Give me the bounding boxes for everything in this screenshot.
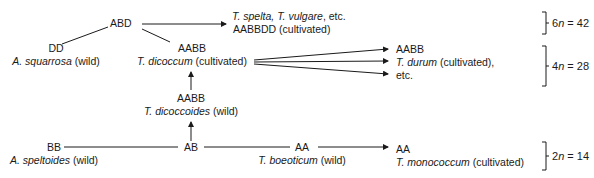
node-boeoticum: AA T. boeoticum (wild) xyxy=(252,141,352,167)
node-dicoccoides: AABB T. dicoccoides (wild) xyxy=(136,92,246,118)
ploidy-diploid: 2n = 14 xyxy=(552,150,589,162)
bracket-6n xyxy=(542,12,546,34)
genome-label: BB xyxy=(4,141,104,154)
status-label: (wild) xyxy=(321,154,346,166)
node-dicoccum: AABB T. dicoccum (cultivated) xyxy=(134,42,250,68)
bracket-4n xyxy=(542,46,546,86)
genome-label: AABBDD xyxy=(233,23,276,35)
status-label: (wild) xyxy=(213,105,238,117)
node-spelta: T. spelta, T. vulgare, etc. AABBDD (cult… xyxy=(232,10,346,36)
species-name: T. dicoccoides xyxy=(144,105,210,117)
genome-label: AABB xyxy=(136,92,246,105)
status-label: (cultivated), xyxy=(440,56,494,68)
genome-label: AABB xyxy=(134,42,250,55)
genome-label: AA xyxy=(396,143,524,156)
line-dicoccum-abd xyxy=(142,29,170,42)
ploidy-value: = 42 xyxy=(564,17,589,29)
status-label: (cultivated) xyxy=(279,23,330,35)
ploidy-hexaploid: 6n = 42 xyxy=(552,17,589,29)
ploidy-tetraploid: 4n = 28 xyxy=(552,60,589,72)
arrow-dicoccum-durum xyxy=(254,61,388,62)
node-abd: ABD xyxy=(110,17,132,30)
status-label: (cultivated) xyxy=(196,55,247,67)
arrow-dicoccum-etc xyxy=(254,64,388,74)
species-name: A. speltoides xyxy=(10,154,70,166)
status-label: (wild) xyxy=(73,154,98,166)
genome-label: AB xyxy=(184,141,198,153)
genome-label: AABB xyxy=(396,43,494,56)
species-name: T. boeoticum xyxy=(258,154,318,166)
status-label: (cultivated) xyxy=(473,156,524,168)
species-name: T. spelta, T. vulgare xyxy=(232,10,323,22)
ploidy-value: = 14 xyxy=(564,150,589,162)
suffix-text: , etc. xyxy=(323,10,346,22)
status-label: (wild) xyxy=(75,55,100,67)
node-ab: AB xyxy=(180,141,202,154)
genome-label: AA xyxy=(252,141,352,154)
genome-label: ABD xyxy=(110,17,132,29)
bracket-2n xyxy=(542,142,546,170)
species-name: T. dicoccum xyxy=(137,55,193,67)
node-bb: BB A. speltoides (wild) xyxy=(4,141,104,167)
arrow-dicoccum-aabb xyxy=(254,49,388,60)
node-durum: AABB T. durum (cultivated), etc. xyxy=(396,43,494,82)
node-dd: DD A. squarrosa (wild) xyxy=(6,42,106,68)
ploidy-value: = 28 xyxy=(564,60,589,72)
species-name: T. monococcum xyxy=(396,156,470,168)
species-name: T. durum xyxy=(396,56,437,68)
node-monococcum: AA T. monococcum (cultivated) xyxy=(396,143,524,169)
species-name: A. squarrosa xyxy=(12,55,72,67)
genome-label: DD xyxy=(6,42,106,55)
etc-label: etc. xyxy=(396,69,494,82)
